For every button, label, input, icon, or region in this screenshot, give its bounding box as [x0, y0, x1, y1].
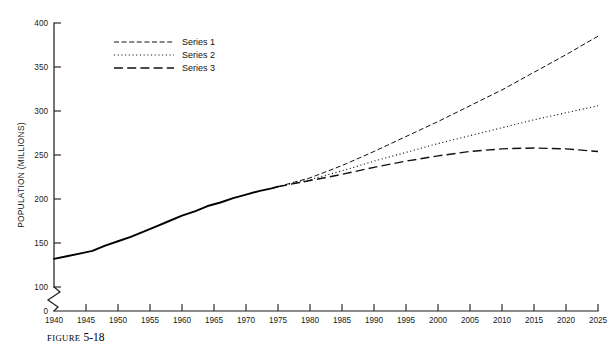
y-axis-title: POPULATION (MILLIONS) [16, 122, 26, 228]
axes-group [48, 23, 598, 311]
y-tick-label: 400 [34, 19, 48, 28]
series-line-1 [278, 36, 598, 186]
x-tick-label: 2025 [589, 316, 608, 325]
population-projection-chart: POPULATION (MILLIONS) 100150200250300350… [0, 0, 615, 354]
x-tick-label: 2000 [429, 316, 448, 325]
y-tick-label: 150 [34, 239, 48, 248]
y-tick-label: 350 [34, 63, 48, 72]
legend-label-2: Series 2 [182, 50, 215, 60]
x-tick-label: 1955 [141, 316, 160, 325]
x-tick-label: 1970 [237, 316, 256, 325]
figure-caption-label: FIGURE [47, 333, 80, 343]
y-tick-label: 250 [34, 151, 48, 160]
figure-caption: FIGURE5-18 [47, 331, 105, 343]
x-tick-label: 1990 [365, 316, 384, 325]
x-tick-group [86, 304, 598, 311]
x-tick-label: 2020 [557, 316, 576, 325]
y-tick-label: 300 [34, 107, 48, 116]
x-tick-label: 1940 [45, 316, 64, 325]
x-tick-label: 1965 [205, 316, 224, 325]
x-tick-label: 1985 [333, 316, 352, 325]
legend-label-3: Series 3 [182, 63, 215, 73]
x-tick-label: 2010 [493, 316, 512, 325]
figure-container: POPULATION (MILLIONS) 100150200250300350… [0, 0, 615, 354]
x-tick-label: 1950 [109, 316, 128, 325]
y-tick-label: 100 [34, 283, 48, 292]
historical-line [54, 187, 278, 259]
series-line-3 [278, 148, 598, 187]
y-tick-label: 200 [34, 195, 48, 204]
chart-legend: Series 1Series 2Series 3 [114, 37, 215, 73]
y-axis-break-zigzag [48, 287, 60, 311]
x-tick-label: 1960 [173, 316, 192, 325]
plot-series-group [54, 36, 598, 259]
legend-label-1: Series 1 [182, 37, 215, 47]
y-axis-zero-label: 0 [43, 307, 48, 316]
x-tick-label: 1995 [397, 316, 416, 325]
x-tick-label-group: 1940194519501955196019651970197519801985… [45, 316, 608, 325]
y-tick-label-group: 100150200250300350400 [34, 19, 48, 292]
x-tick-label: 1975 [269, 316, 288, 325]
x-tick-label: 2015 [525, 316, 544, 325]
x-tick-label: 1945 [77, 316, 96, 325]
x-tick-label: 1980 [301, 316, 320, 325]
series-line-2 [278, 106, 598, 187]
x-tick-label: 2005 [461, 316, 480, 325]
y-tick-group [54, 23, 61, 287]
figure-caption-number: 5-18 [80, 331, 104, 343]
